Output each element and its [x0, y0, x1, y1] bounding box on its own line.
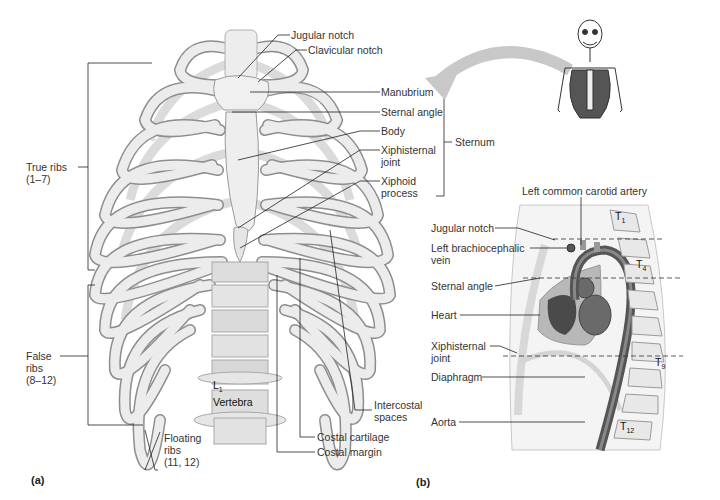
label-b-xiph-line2: joint: [431, 352, 486, 364]
label-true-ribs: True ribs (1–7): [26, 161, 67, 185]
label-xiphisternal-line2: joint: [381, 156, 436, 168]
label-true-ribs-line2: (1–7): [26, 173, 67, 185]
label-false-ribs-line3: (8–12): [26, 374, 56, 386]
label-false-ribs: False ribs (8–12): [26, 350, 56, 386]
label-t1: T1: [615, 210, 625, 227]
manubrium-shape: [214, 75, 269, 110]
label-vertebra: Vertebra: [213, 396, 253, 408]
label-left-common-carotid: Left common carotid artery: [522, 185, 647, 197]
label-jugular-notch: Jugular notch: [291, 29, 354, 41]
sternum-body-shape: [225, 112, 258, 232]
label-t4: T4: [636, 258, 646, 275]
label-b-xiphisternal-joint: Xiphisternal joint: [431, 340, 486, 364]
label-xiphoid-line2: process: [381, 187, 418, 199]
label-body: Body: [381, 125, 405, 137]
label-xiphoid-line1: Xiphoid: [381, 175, 418, 187]
label-b-jugular-notch: Jugular notch: [431, 222, 494, 234]
label-floating-ribs-line2: ribs: [164, 444, 201, 456]
label-diaphragm: Diaphragm: [431, 371, 482, 383]
label-floating-ribs-line3: (11, 12): [164, 456, 201, 468]
upper-vertebra: [225, 30, 257, 80]
label-floating-ribs: Floating ribs (11, 12): [164, 432, 201, 468]
label-heart: Heart: [431, 309, 457, 321]
label-sternum: Sternum: [455, 136, 495, 148]
diagram-artwork: [0, 0, 720, 500]
label-costal-cartilage: Costal cartilage: [317, 431, 389, 443]
label-aorta: Aorta: [431, 416, 456, 428]
label-clavicular-notch: Clavicular notch: [308, 44, 383, 56]
label-t12: T12: [620, 420, 634, 437]
label-sternal-angle: Sternal angle: [381, 106, 443, 118]
curved-arrow-shape: [440, 52, 570, 80]
label-intercostal-line2: spaces: [374, 411, 422, 423]
label-xiphoid-process: Xiphoid process: [381, 175, 418, 199]
label-false-ribs-line1: False: [26, 350, 56, 362]
panel-label-b: (b): [416, 476, 430, 488]
label-lbv-line1: Left brachiocephalic: [431, 242, 524, 254]
label-l1-sub: 1: [219, 386, 223, 393]
label-floating-ribs-line1: Floating: [164, 432, 201, 444]
label-l1-vertebra: L1 Vertebra: [213, 379, 253, 408]
panel-label-a: (a): [31, 474, 44, 486]
label-intercostal-line1: Intercostal: [374, 399, 422, 411]
label-b-xiph-line1: Xiphisternal: [431, 340, 486, 352]
label-intercostal-spaces: Intercostal spaces: [374, 399, 422, 423]
label-xiphisternal-line1: Xiphisternal: [381, 144, 436, 156]
label-true-ribs-line1: True ribs: [26, 161, 67, 173]
label-b-sternal-angle: Sternal angle: [431, 280, 493, 292]
sagittal-section: [510, 205, 666, 450]
label-manubrium: Manubrium: [381, 86, 434, 98]
label-costal-margin: Costal margin: [317, 446, 382, 458]
label-false-ribs-line2: ribs: [26, 362, 56, 374]
label-xiphisternal-joint: Xiphisternal joint: [381, 144, 436, 168]
label-left-brachiocephalic-vein: Left brachiocephalic vein: [431, 242, 524, 266]
label-lbv-line2: vein: [431, 254, 524, 266]
label-t9: T9: [655, 356, 665, 373]
